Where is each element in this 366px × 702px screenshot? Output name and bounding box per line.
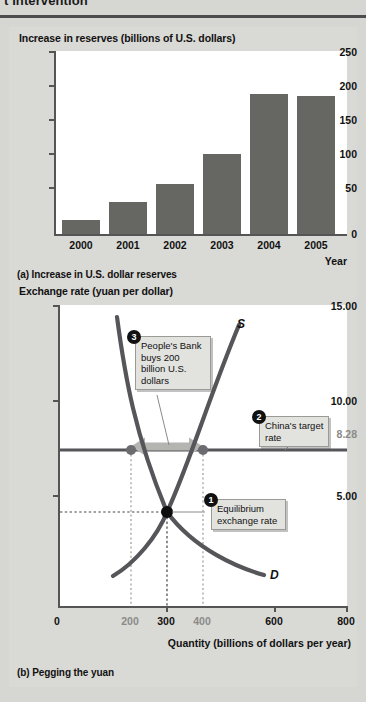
bar-ytick-mark-250 [49, 51, 55, 53]
bar-ytick-mark-100 [49, 153, 55, 155]
sd-ytick-label-5: 5.00 [319, 490, 357, 502]
demand-curve-label: D [270, 568, 279, 582]
panel-b-caption: (b) Pegging the yuan [17, 667, 114, 678]
sd-chart-x-axis-caption: Quantity (billions of dollars per year) [168, 637, 351, 649]
page-header: t Intervention [0, 0, 366, 20]
panel-a-caption: (a) Increase in U.S. dollar reserves [17, 269, 177, 280]
sd-ytick-mark-10 [53, 400, 60, 402]
sd-chart-x-axis [58, 606, 347, 608]
bar-2000 [62, 220, 100, 234]
page-title: t Intervention [4, 0, 88, 8]
callout-1-equilibrium-exchange-rate: Equilibrium exchange rate [211, 499, 286, 530]
sd-ytick-label-15: 15.00 [319, 300, 357, 312]
bar-ytick-mark-150 [49, 119, 55, 121]
bar-chart-x-axis [54, 234, 347, 236]
sd-chart-title: Exchange rate (yuan per dollar) [19, 285, 173, 297]
bar-ytick-mark-200 [49, 85, 55, 87]
bar-ytick-label-200: 200 [327, 80, 357, 92]
sd-ytick-label-10: 10.00 [319, 395, 357, 407]
bar-chart-title: Increase in reserves (billions of U.S. d… [19, 32, 235, 44]
bar-chart-y-axis [54, 51, 56, 236]
bar-ytick-label-250: 250 [327, 46, 357, 58]
sd-xtick-label-0: 0 [37, 615, 77, 627]
bar-ytick-mark-50 [49, 187, 55, 189]
sd-chart-y-axis [58, 305, 60, 608]
sd-xtick-label-200: 200 [110, 615, 150, 627]
supply-curve-label: S [237, 317, 245, 331]
panel-a-bar-chart: Increase in reserves (billions of U.S. d… [9, 27, 357, 282]
panel-b-supply-demand-chart: Exchange rate (yuan per dollar) 15.00 10… [9, 285, 357, 687]
bar-2001 [109, 202, 147, 234]
figure-container: Increase in reserves (billions of U.S. d… [9, 27, 357, 687]
sd-xtick-label-600: 600 [254, 615, 294, 627]
header-divider [0, 15, 366, 18]
bar-2004 [250, 94, 288, 234]
sd-xtick-mark-300 [166, 606, 168, 612]
bar-2005 [297, 96, 335, 234]
sd-xtick-mark-800 [346, 606, 348, 612]
sd-ytick-mark-5 [53, 495, 60, 497]
bar-xlabel-2002: 2002 [153, 239, 197, 251]
sd-xtick-label-800: 800 [326, 615, 366, 627]
sd-xtick-mark-600 [274, 606, 276, 612]
sd-xtick-label-400: 400 [182, 615, 222, 627]
bar-xlabel-2000: 2000 [59, 239, 103, 251]
bar-xlabel-2003: 2003 [200, 239, 244, 251]
bar-xlabel-2001: 2001 [106, 239, 150, 251]
callout-1-badge: 1 [204, 493, 218, 507]
bar-2003 [203, 154, 241, 234]
callout-3-peoples-bank-purchase: People's Bank buys 200 billion U.S. doll… [135, 336, 211, 390]
callout-2-badge: 2 [252, 410, 266, 424]
bar-2002 [156, 184, 194, 234]
bar-xlabel-2005: 2005 [294, 239, 338, 251]
bar-xlabel-2004: 2004 [247, 239, 291, 251]
bar-chart-x-axis-caption: Year [325, 255, 347, 267]
sd-xtick-label-300: 300 [146, 615, 186, 627]
sd-ytick-mark-15 [53, 305, 60, 307]
callout-3-badge: 3 [127, 330, 141, 344]
callout-2-china-target-rate: China's target rate [259, 416, 329, 447]
